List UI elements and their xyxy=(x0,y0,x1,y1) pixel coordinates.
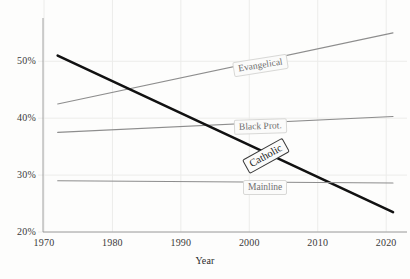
series-lines xyxy=(58,33,393,212)
y-tick-label: 20% xyxy=(2,226,36,237)
y-tick-label: 40% xyxy=(2,112,36,123)
x-tick-label: 1980 xyxy=(92,237,132,248)
chart-container: 20%30%40%50% 197019801990200020102020 Ye… xyxy=(0,0,410,279)
x-tick-label: 1990 xyxy=(161,237,201,248)
series-line-catholic xyxy=(58,56,393,212)
x-tick-label: 1970 xyxy=(24,237,64,248)
series-line-evangelical xyxy=(58,33,393,104)
series-line-black-prot xyxy=(58,116,393,132)
series-label-mainline: Mainline xyxy=(243,180,287,195)
gridlines xyxy=(38,0,407,232)
x-tick-label: 2010 xyxy=(298,237,338,248)
x-tick-label: 2020 xyxy=(366,237,406,248)
y-tick-label: 30% xyxy=(2,169,36,180)
series-line-mainline xyxy=(58,181,393,183)
x-axis-title: Year xyxy=(0,255,410,266)
series-label-black-prot: Black Prot. xyxy=(234,118,287,135)
x-tick-label: 2000 xyxy=(229,237,269,248)
y-tick-label: 50% xyxy=(2,55,36,66)
